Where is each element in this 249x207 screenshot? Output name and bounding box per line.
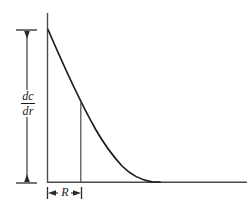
r-dimension-left-arrowhead [48,190,56,196]
y-axis-label-fraction: dc dr [21,90,35,117]
radius-label: R [57,186,73,198]
y-axis-label: dc dr [13,90,43,117]
figure-root: dc dr R [0,0,249,207]
y-axis-label-denominator: dr [21,105,35,117]
y-dimension-bottom-arrowhead [24,174,30,182]
r-dimension-right-arrowhead [73,190,81,196]
decay-curve [48,30,160,183]
y-axis-label-numerator: dc [21,90,35,102]
